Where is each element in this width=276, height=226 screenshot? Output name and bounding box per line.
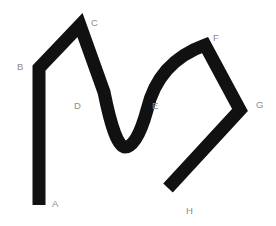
vertex-label-b: B [17,62,24,72]
vertex-label-d: D [74,101,81,111]
vertex-label-f: F [213,33,219,43]
thick-path-graphic [0,0,276,226]
figure-canvas: A B C D E F G H [0,0,276,226]
vertex-label-c: C [91,18,98,28]
vertex-label-a: A [52,199,59,209]
vertex-label-g: G [256,100,264,110]
vertex-label-e: E [152,101,159,111]
vertex-label-h: H [186,206,193,216]
